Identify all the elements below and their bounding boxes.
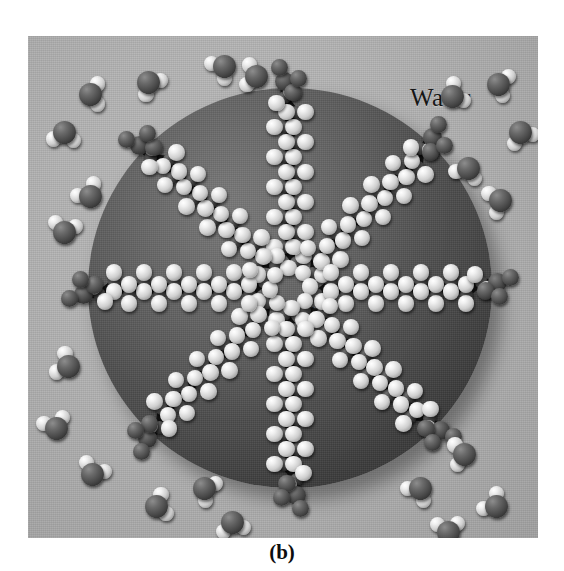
hydrogen-atom (241, 295, 257, 311)
hydrogen-atom (297, 321, 313, 337)
oxygen-atom (290, 70, 307, 87)
hydrogen-atom (224, 343, 240, 359)
hydrogen-atom (297, 351, 313, 367)
oxygen-atom (245, 65, 268, 88)
hydrogen-atom (266, 209, 282, 225)
hydrogen-atom (383, 283, 399, 299)
hydrogen-atom (395, 415, 411, 431)
hydrogen-atom (278, 351, 294, 367)
hydrogen-atom (297, 194, 313, 210)
oxygen-atom (133, 443, 150, 460)
hydrogen-atom (266, 149, 282, 165)
hydrogen-atom (428, 295, 444, 311)
water-phase-panel: Water Oil (28, 36, 538, 538)
oxygen-atom (53, 121, 76, 144)
oxygen-atom (430, 116, 447, 133)
hydrogen-atom (368, 295, 384, 311)
hydrogen-atom (221, 362, 237, 378)
oxygen-atom (491, 288, 508, 305)
hydrogen-atom (226, 264, 242, 280)
hydrogen-atom (278, 381, 294, 397)
hydrogen-atom (278, 164, 294, 180)
hydrogen-atom (278, 224, 294, 240)
hydrogen-atom (121, 295, 137, 311)
hydrogen-atom (278, 321, 294, 337)
hydrogen-atom (253, 229, 269, 245)
hydrogen-atom (285, 336, 301, 352)
hydrogen-atom (407, 383, 423, 399)
oxygen-atom (292, 500, 309, 517)
hydrogen-atom (338, 276, 354, 292)
hydrogen-atom (398, 276, 414, 292)
hydrogen-atom (234, 227, 250, 243)
hydrogen-atom (141, 159, 157, 175)
hydrogen-atom (266, 336, 282, 352)
hydrogen-atom (190, 166, 206, 182)
hydrogen-atom (323, 264, 339, 280)
hydrogen-atom (199, 219, 215, 235)
hydrogen-atom (196, 264, 212, 280)
oxygen-atom (79, 83, 102, 106)
oxygen-atom (489, 189, 512, 212)
hydrogen-atom (329, 333, 345, 349)
hydrogen-atom (151, 295, 167, 311)
hydrogen-atom (368, 276, 384, 292)
hydrogen-atom (297, 441, 313, 457)
hydrogen-atom (443, 264, 459, 280)
hydrogen-atom (268, 95, 284, 111)
hydrogen-atom (266, 426, 282, 442)
hydrogen-atom (428, 276, 444, 292)
hydrogen-atom (413, 264, 429, 280)
hydrogen-atom (136, 264, 152, 280)
oxygen-atom (424, 434, 441, 451)
hydrogen-atom (351, 354, 367, 370)
oxygen-atom (81, 463, 104, 486)
hydrogen-atom (398, 169, 414, 185)
hydrogen-atom (266, 119, 282, 135)
oxygen-atom (57, 355, 80, 378)
hydrogen-atom (393, 396, 409, 412)
oxygen-atom (45, 417, 68, 440)
hydrogen-atom (283, 300, 299, 316)
oxygen-atom (409, 477, 432, 500)
oxygen-atom (213, 55, 236, 78)
hydrogen-atom (197, 200, 213, 216)
oxygen-atom (271, 59, 288, 76)
hydrogen-atom (211, 276, 227, 292)
hydrogen-atom (240, 243, 256, 259)
hydrogen-atom (97, 293, 113, 309)
hydrogen-atom (178, 198, 194, 214)
hydrogen-atom (196, 283, 212, 299)
oxygen-atom (441, 85, 464, 108)
hydrogen-atom (226, 283, 242, 299)
hydrogen-atom (417, 166, 433, 182)
hydrogen-atom (413, 283, 429, 299)
hydrogen-atom (467, 266, 483, 282)
oxygen-atom (273, 489, 290, 506)
oxygen-atom (502, 269, 519, 286)
hydrogen-atom (443, 283, 459, 299)
hydrogen-atom (364, 340, 380, 356)
hydrogen-atom (262, 281, 278, 297)
hydrogen-atom (166, 283, 182, 299)
hydrogen-atom (285, 426, 301, 442)
hydrogen-atom (383, 264, 399, 280)
hydrogen-atom (297, 224, 313, 240)
hydrogen-atom (363, 176, 379, 192)
hydrogen-atom (267, 267, 283, 283)
hydrogen-atom (106, 264, 122, 280)
hydrogen-atom (338, 295, 354, 311)
oxygen-atom (145, 495, 168, 518)
oxygen-atom (72, 271, 89, 288)
hydrogen-atom (332, 352, 348, 368)
oxygen-atom (118, 131, 135, 148)
hydrogen-atom (146, 393, 162, 409)
oxygen-atom (487, 73, 510, 96)
hydrogen-atom (285, 209, 301, 225)
hydrogen-atom (266, 179, 282, 195)
hydrogen-atom (297, 104, 313, 120)
oxygen-atom (457, 157, 480, 180)
hydrogen-atom (353, 283, 369, 299)
oxygen-atom (221, 511, 244, 534)
hydrogen-atom (181, 295, 197, 311)
